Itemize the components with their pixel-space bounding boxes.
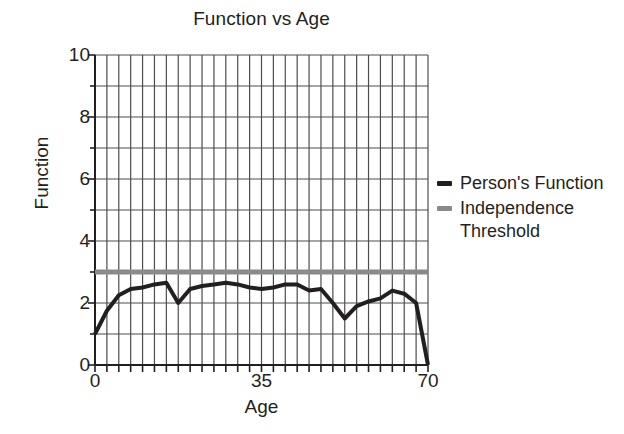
x-tick-label: 35 — [232, 370, 292, 392]
chart-figure: Function vs Age Function Age 0246810 035… — [0, 0, 624, 434]
x-tick-label: 0 — [65, 370, 125, 392]
legend-item: Person's Function — [437, 172, 622, 195]
legend-item: Independence Threshold — [437, 197, 622, 243]
legend-line-swatch-icon — [437, 181, 452, 186]
legend-line-swatch-icon — [437, 206, 452, 211]
legend-item-label: Independence Threshold — [460, 197, 622, 243]
legend-item-label: Person's Function — [460, 172, 622, 195]
x-tick-label: 70 — [398, 370, 458, 392]
chart-legend: Person's FunctionIndependence Threshold — [437, 172, 622, 245]
